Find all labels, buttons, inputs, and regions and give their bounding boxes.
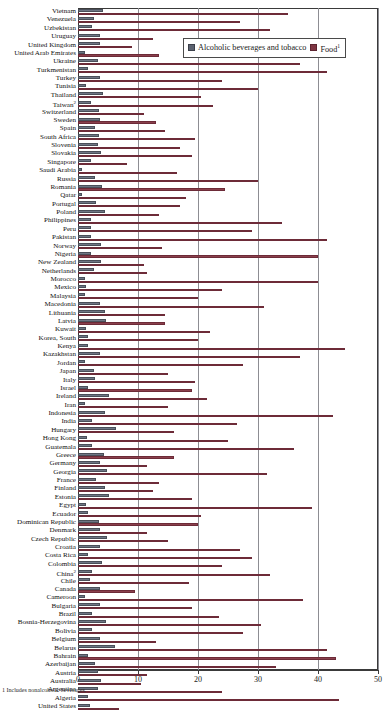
bar-alcoholic-beverages-and-tobacco [78,185,102,188]
bar-group [78,326,378,334]
bar-food [78,498,192,500]
category-label: India [61,417,76,425]
bar-alcoholic-beverages-and-tobacco [78,143,98,146]
chart-footnote: 1 Includes nonalcoholic beverages. [2,687,86,696]
bar-group [78,444,378,452]
bar-alcoholic-beverages-and-tobacco [78,528,100,531]
bar-group [78,578,378,586]
bar-alcoholic-beverages-and-tobacco [78,670,98,673]
bar-food [78,364,243,366]
category-label: Romania [50,183,76,191]
chart-row: Japan [0,368,385,376]
category-label: Bosnia-Herzegovina [18,618,76,626]
bar-food [78,683,141,685]
bar-group [78,603,378,611]
bar-food [78,674,147,676]
bar-alcoholic-beverages-and-tobacco [78,486,105,489]
bar-food [78,616,219,618]
bar-food [78,222,282,224]
category-label: Guatemala [45,443,76,451]
bar-group [78,427,378,435]
bar-alcoholic-beverages-and-tobacco [78,302,100,305]
bar-alcoholic-beverages-and-tobacco [78,277,85,280]
bar-alcoholic-beverages-and-tobacco [78,570,92,573]
bar-alcoholic-beverages-and-tobacco [78,42,100,45]
category-label: Dominican Republic [17,518,76,526]
bar-alcoholic-beverages-and-tobacco [78,402,85,405]
bar-food [78,13,288,15]
bar-food [78,557,252,559]
category-label: Pakistan [52,233,76,241]
category-label: Lithuania [49,309,76,317]
bar-group [78,561,378,569]
bar-food [78,314,165,316]
category-label: Vietnam [52,7,76,15]
bar-alcoholic-beverages-and-tobacco [78,536,107,539]
category-label: Denmark [50,526,76,534]
bar-food [78,105,213,107]
bar-food [78,490,153,492]
bar-alcoholic-beverages-and-tobacco [78,386,88,389]
bar-alcoholic-beverages-and-tobacco [78,310,105,313]
bar-alcoholic-beverages-and-tobacco [78,9,103,12]
bar-group [78,335,378,343]
category-label: Estonia [55,493,76,501]
category-label: Poland [56,208,76,216]
chart-legend: Alcoholic beverages and tobacco Food1 [183,38,346,58]
bar-group [78,435,378,443]
bar-group [78,360,378,368]
legend-label-food-text: Food [320,45,337,54]
bar-alcoholic-beverages-and-tobacco [78,126,95,129]
bar-group [78,402,378,410]
category-label: Malaysia [50,292,76,300]
bar-alcoholic-beverages-and-tobacco [78,679,101,682]
bar-food [78,289,222,291]
bar-alcoholic-beverages-and-tobacco [78,151,101,154]
bar-alcoholic-beverages-and-tobacco [78,134,99,137]
category-label: Brazil [59,610,76,618]
bar-group [78,619,378,627]
bar-alcoholic-beverages-and-tobacco [78,25,92,28]
bar-alcoholic-beverages-and-tobacco [78,494,109,497]
bar-food [78,80,222,82]
category-label: Morocco [50,275,76,283]
bar-group [78,469,378,477]
bar-group [78,477,378,485]
bar-alcoholic-beverages-and-tobacco [78,159,91,162]
category-label: Costa Rica [45,551,76,559]
category-label: South Africa [40,133,76,141]
bar-food [78,205,180,207]
bar-food [78,46,132,48]
bar-alcoholic-beverages-and-tobacco [78,360,85,363]
category-label: Czech Republic [31,535,76,543]
category-label: Norway [53,242,76,250]
bar-group [78,217,378,225]
bar-food [78,699,339,701]
bar-food [78,188,225,190]
category-label: Korea, South [39,334,76,342]
bar-food [78,574,270,576]
category-label: Thailand [51,91,76,99]
bar-food [78,515,201,517]
bar-group [78,611,378,619]
bar-alcoholic-beverages-and-tobacco [78,210,105,213]
bar-food [78,54,159,56]
bar-food [78,281,318,283]
bar-food [78,532,147,534]
category-label: France [57,476,76,484]
bar-alcoholic-beverages-and-tobacco [78,503,86,506]
bar-group [78,134,378,142]
bar-food [78,297,198,299]
category-label: Kuwait [55,325,76,333]
bar-group [78,519,378,527]
bar-food [78,599,303,601]
bar-group [78,670,378,678]
bar-alcoholic-beverages-and-tobacco [78,84,86,87]
bar-alcoholic-beverages-and-tobacco [78,612,92,615]
bar-alcoholic-beverages-and-tobacco [78,260,101,263]
bar-group [78,645,378,653]
chart-row: China2 [0,569,385,577]
bar-food [78,230,252,232]
bar-group [78,695,378,703]
bar-alcoholic-beverages-and-tobacco [78,511,88,514]
